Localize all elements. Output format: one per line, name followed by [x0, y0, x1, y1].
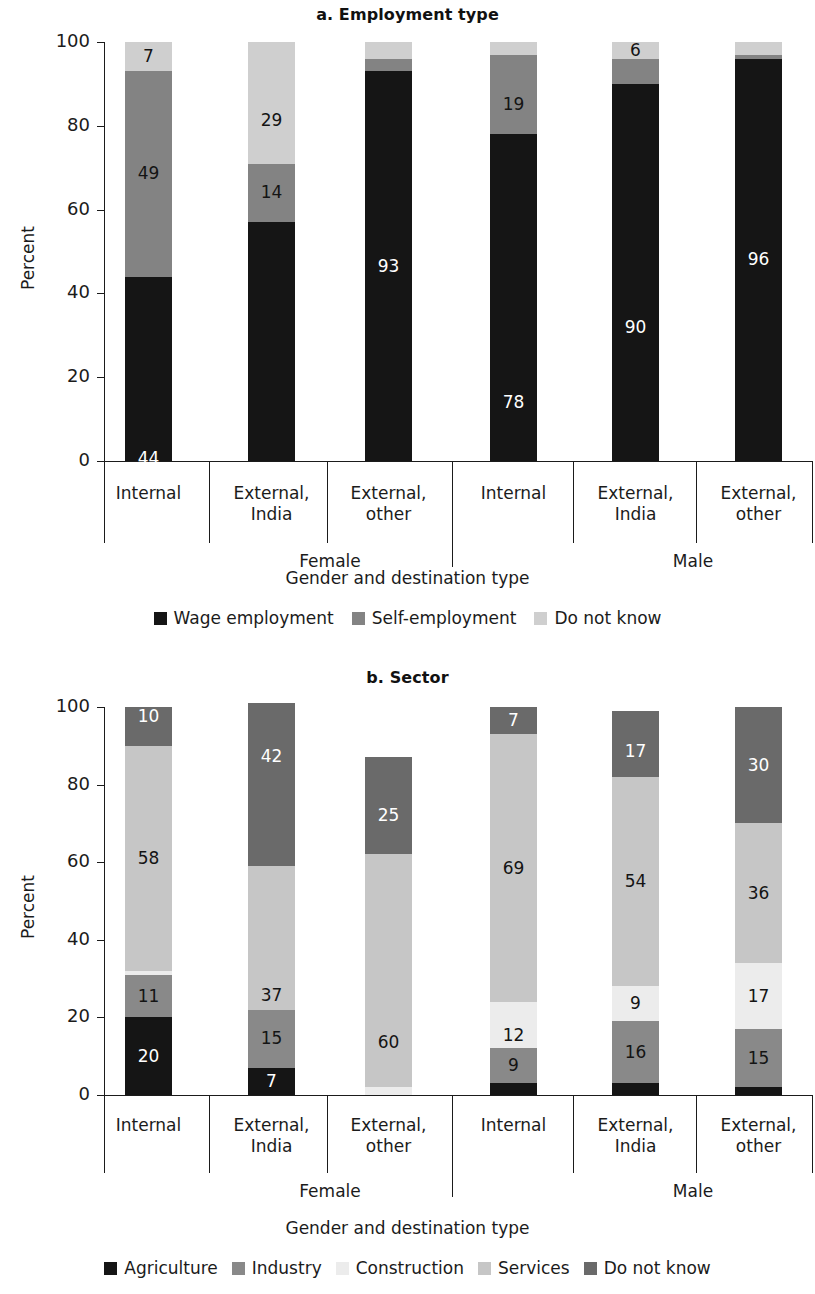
bar-segment [735, 42, 782, 55]
plot-area-a: 020406080100Percent444975714299378199069… [0, 0, 815, 520]
bar-value-label: 90 [625, 319, 647, 336]
legend-label: Industry [252, 1258, 322, 1278]
bar-value-label: 19 [503, 96, 525, 113]
stacked-bar: 44497 [125, 42, 172, 461]
y-axis-tick-mark [97, 126, 104, 127]
bar-segment: 93 [365, 71, 412, 461]
legend-label: Wage employment [174, 608, 334, 628]
bar-value-label: 11 [138, 988, 160, 1005]
category-label: External, India [566, 1115, 706, 1156]
y-axis-tick-label: 0 [0, 451, 90, 469]
legend-item: Services [478, 1258, 570, 1278]
legend-swatch [584, 1262, 597, 1275]
bar-value-label: 57 [261, 463, 283, 480]
bar-value-label: 25 [378, 807, 400, 824]
bar-value-label: 14 [261, 184, 283, 201]
bar-value-label: 10 [138, 708, 160, 725]
legend-swatch [352, 612, 365, 625]
bar-segment: 11 [125, 975, 172, 1018]
bar-segment: 7 [125, 42, 172, 71]
stacked-bar: 1695417 [612, 707, 659, 1095]
bar-segment: 78 [490, 134, 537, 461]
y-axis-tick-label: 20 [0, 367, 90, 385]
y-axis-tick-mark [97, 377, 104, 378]
y-axis-tick-mark [97, 1095, 104, 1096]
bar-segment: 29 [248, 42, 295, 164]
legend-b: AgricultureIndustryConstructionServicesD… [0, 1258, 815, 1278]
stacked-bar: 7819 [490, 42, 537, 461]
bar-segment: 19 [490, 55, 537, 135]
y-axis-tick-label: 100 [0, 32, 90, 50]
bar-segment: 7 [248, 1068, 295, 1095]
bar-value-label: 78 [503, 394, 525, 411]
bar-segment: 69 [490, 734, 537, 1002]
bar-value-label: 93 [378, 258, 400, 275]
legend-label: Agriculture [124, 1258, 218, 1278]
bar-value-label: 17 [748, 988, 770, 1005]
x-axis-line [104, 1095, 812, 1096]
stacked-bar: 15173630 [735, 707, 782, 1095]
bar-segment: 15 [735, 1029, 782, 1087]
bar-segment: 20 [125, 1017, 172, 1095]
bar-segment [735, 1087, 782, 1095]
legend-label: Do not know [554, 608, 661, 628]
category-label: Internal [444, 1115, 584, 1136]
bar-segment [125, 971, 172, 975]
bar-value-label: 7 [143, 48, 154, 65]
legend-item: Industry [232, 1258, 322, 1278]
y-axis-tick-label: 40 [0, 930, 90, 948]
bar-value-label: 16 [625, 1044, 647, 1061]
bar-segment: 44 [125, 277, 172, 461]
bar-segment: 15 [248, 1010, 295, 1068]
y-axis-tick-label: 60 [0, 200, 90, 218]
bar-value-label: 9 [630, 995, 641, 1012]
stacked-bar: 96 [735, 42, 782, 461]
group-label: Male [613, 1181, 773, 1201]
bar-value-label: 15 [261, 1030, 283, 1047]
bar-segment: 16 [612, 1021, 659, 1083]
bar-segment: 36 [735, 823, 782, 963]
bar-segment: 17 [612, 711, 659, 777]
bar-value-label: 54 [625, 873, 647, 890]
y-axis-tick-mark [97, 862, 104, 863]
category-label: Internal [79, 1115, 219, 1136]
bar-value-label: 30 [748, 757, 770, 774]
y-axis-tick-label: 80 [0, 775, 90, 793]
legend-swatch [478, 1262, 491, 1275]
bar-value-label: 60 [378, 1034, 400, 1051]
y-axis-title: Percent [18, 875, 38, 939]
legend-label: Services [498, 1258, 570, 1278]
y-axis-tick-mark [97, 461, 104, 462]
bar-value-label: 44 [138, 450, 160, 467]
legend-swatch [154, 612, 167, 625]
x-axis-line [104, 461, 812, 462]
y-axis-tick-mark [97, 293, 104, 294]
panel-employment-type: a. Employment type 020406080100Percent44… [0, 0, 815, 640]
bar-value-label: 42 [261, 748, 283, 765]
bar-segment: 17 [735, 963, 782, 1029]
bar-value-label: 20 [138, 1048, 160, 1065]
y-axis-line [104, 42, 105, 461]
bar-value-label: 29 [261, 112, 283, 129]
y-axis-tick-mark [97, 707, 104, 708]
category-label: External, other [319, 1115, 459, 1156]
bar-segment: 60 [365, 854, 412, 1087]
bar-value-label: 36 [748, 885, 770, 902]
bar-segment: 25 [365, 757, 412, 854]
bar-value-label: 58 [138, 850, 160, 867]
y-axis-tick-label: 40 [0, 283, 90, 301]
bar-value-label: 9 [508, 1057, 519, 1074]
stacked-bar: 6025 [365, 707, 412, 1095]
bar-segment: 12 [490, 1002, 537, 1049]
bar-segment [490, 1083, 537, 1095]
y-axis-tick-label: 20 [0, 1007, 90, 1025]
category-label: External, India [566, 483, 706, 524]
bar-segment: 54 [612, 777, 659, 987]
stacked-bar: 7153742 [248, 707, 295, 1095]
y-axis-tick-mark [97, 1017, 104, 1018]
bar-value-label: 17 [625, 743, 647, 760]
bar-segment: 58 [125, 746, 172, 971]
legend-swatch [232, 1262, 245, 1275]
y-axis-tick-mark [97, 785, 104, 786]
legend-item: Do not know [534, 608, 661, 628]
